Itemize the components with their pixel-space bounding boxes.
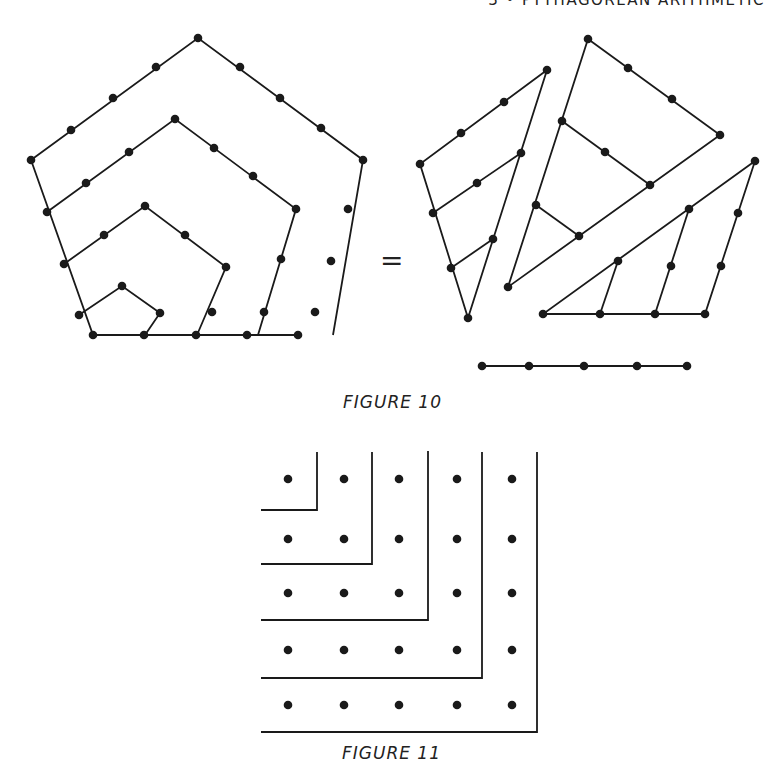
figure-10-right-dots — [416, 35, 760, 371]
figure-10-left-pentagon — [31, 38, 363, 335]
equals-sign: = — [380, 244, 403, 277]
figure-11-caption: FIGURE 11 — [342, 743, 441, 763]
figures-canvas — [0, 0, 771, 770]
figure-10-caption: FIGURE 10 — [343, 392, 442, 412]
